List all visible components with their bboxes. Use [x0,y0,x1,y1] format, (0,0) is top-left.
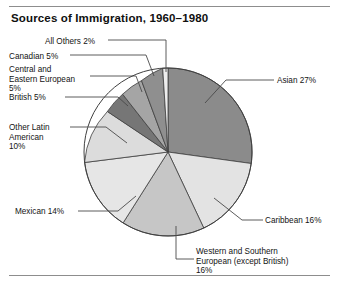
label-canadian: Canadian 5% [9,52,58,62]
label-asian: Asian 27% [277,76,316,86]
label-central-eastern-european: Central and Eastern European 5% [9,65,75,94]
pie-chart-figure: Sources of Immigration, 1960–1980 [0,0,339,289]
label-other-latin-american: Other Latin American 10% [9,123,50,152]
label-caribbean: Caribbean 16% [265,216,321,226]
label-western-southern-european: Western and Southern European (except Br… [196,247,288,276]
pie-slice-asian[interactable] [168,68,252,164]
leader-line-all-others [108,40,166,72]
label-mexican: Mexican 14% [15,207,64,217]
label-british: British 5% [9,93,46,103]
label-all-others: All Others 2% [45,37,95,47]
